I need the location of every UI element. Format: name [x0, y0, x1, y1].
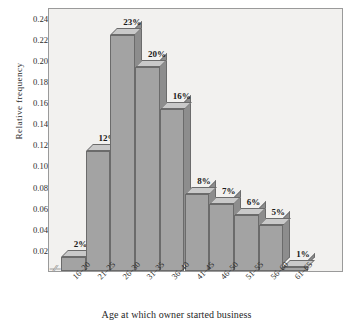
y-tick-label: 0.02	[33, 246, 48, 256]
plot-inner: 2%12%23%20%16%8%7%6%5%1%	[49, 9, 342, 271]
bar-front-face	[160, 109, 185, 271]
y-tick-label: 0.10	[33, 161, 48, 171]
bar-value-label: 6%	[247, 197, 261, 207]
bar-value-label: 23%	[123, 17, 141, 27]
y-tick-label: 0.22	[33, 35, 48, 45]
histogram-bar	[234, 208, 259, 271]
y-tick-label: 0.04	[33, 225, 48, 235]
bar-front-face	[86, 151, 111, 271]
y-tick-label: 0.16	[33, 98, 48, 108]
x-axis-tick-labels: 16–2021–2526–3031–3536–4041–4546–5051–55…	[48, 273, 343, 309]
histogram-bar	[110, 28, 135, 271]
bar-value-label: 1%	[296, 249, 310, 259]
y-tick-label: 0.08	[33, 183, 48, 193]
bar-front-face	[110, 35, 135, 271]
y-tick-label: 0.18	[33, 77, 48, 87]
bar-value-label: 20%	[148, 49, 166, 59]
y-axis-tick-labels: 0.020.040.060.080.100.120.140.160.180.20…	[18, 8, 48, 272]
histogram-bar	[135, 60, 160, 271]
bar-value-label: 5%	[271, 207, 285, 217]
y-tick-label: 0.20	[33, 56, 48, 66]
bar-front-face	[209, 204, 234, 271]
histogram-bar	[86, 144, 111, 271]
bar-front-face	[185, 194, 210, 271]
y-tick-label: 0.12	[33, 140, 48, 150]
y-tick-label: 0.06	[33, 204, 48, 214]
bar-value-label: 16%	[173, 91, 191, 101]
histogram-bar	[185, 187, 210, 271]
y-tick-label: 0.24	[33, 14, 48, 24]
bar-value-label: 7%	[222, 186, 236, 196]
histogram-bar	[160, 102, 185, 271]
y-tick-label: 0.14	[33, 119, 48, 129]
plot-area: 2%12%23%20%16%8%7%6%5%1%	[48, 8, 343, 272]
histogram-chart: Relative frequency 0.020.040.060.080.100…	[0, 0, 353, 328]
bar-value-label: 8%	[197, 176, 211, 186]
x-axis-title: Age at which owner started business	[0, 309, 353, 320]
histogram-bar	[209, 197, 234, 271]
bar-front-face	[135, 67, 160, 271]
